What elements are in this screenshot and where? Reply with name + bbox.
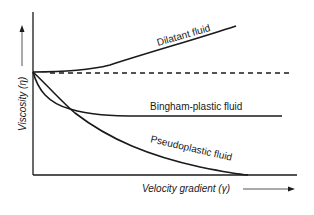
x-axis-label: Velocity gradient (γ)	[142, 183, 230, 194]
x-arrow-head-icon	[288, 187, 295, 192]
y-arrow-head-icon	[20, 25, 25, 32]
y-axis-label: Viscosity (η)	[17, 77, 28, 131]
dilatant-label: Dilatant fluid	[156, 22, 212, 48]
pseudoplastic-label: Pseudoplastic fluid	[150, 133, 234, 162]
bingham-label: Bingham-plastic fluid	[150, 101, 242, 112]
rheology-diagram: Dilatant fluid Bingham-plastic fluid Pse…	[0, 0, 314, 215]
pseudoplastic-curve	[33, 72, 248, 175]
